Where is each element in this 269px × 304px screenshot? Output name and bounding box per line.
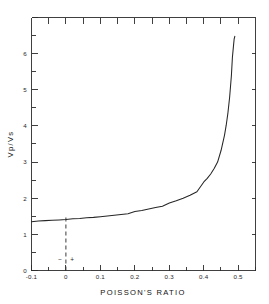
y-tick-label: 1 [23,231,27,238]
x-tick-label: 0 [64,273,68,280]
x-axis-tick-labels: -0.1 0 0.1 0.2 0.3 0.4 0.5 [26,273,243,280]
x-axis-title: POISSON'S RATIO [100,288,185,297]
y-axis-ticks-right [252,54,256,235]
y-axis-title: Vp/Vs [6,131,15,158]
x-tick-label: -0.1 [26,273,38,280]
y-tick-label: 0 [23,267,27,274]
y-tick-label: 6 [23,50,27,57]
x-tick-label: 0.5 [233,273,243,280]
y-tick-label: 3 [23,158,27,165]
x-axis-ticks-top [49,18,238,24]
vp-vs-poissons-ratio-chart: -0.1 0 0.1 0.2 0.3 0.4 0.5 0 1 2 3 4 5 6… [0,0,269,304]
y-tick-label: 4 [23,122,27,129]
x-axis-ticks-bottom [32,265,256,271]
y-tick-label: 5 [23,86,27,93]
negative-sign-label: − [58,256,62,263]
y-axis-tick-labels: 0 1 2 3 4 5 6 [23,50,27,274]
x-tick-label: 0.4 [199,273,209,280]
y-axis-ticks-left [32,18,38,271]
chart-figure: -0.1 0 0.1 0.2 0.3 0.4 0.5 0 1 2 3 4 5 6… [0,0,269,304]
plot-frame [32,18,256,271]
x-tick-label: 0.1 [96,273,106,280]
x-tick-label: 0.3 [165,273,175,280]
x-tick-label: 0.2 [130,273,140,280]
vp-vs-curve [32,36,235,221]
y-tick-label: 2 [23,195,27,202]
positive-sign-label: + [70,256,74,263]
